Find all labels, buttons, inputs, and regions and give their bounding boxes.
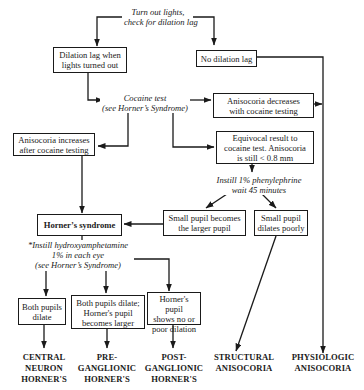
box-equivocal-result: Equivocal result to cocaine test. Anisoc… bbox=[216, 131, 314, 164]
box-no-dilation-line-1: Horner's pupil bbox=[150, 294, 198, 314]
outcome-central-line-2: NEURON bbox=[18, 363, 70, 374]
box-horner-no-dilation: Horner's pupil shows no or poor dilation bbox=[147, 292, 201, 325]
outcome-post-line-1: POST- bbox=[143, 352, 205, 363]
box-decreases-line-2: with cocaine testing bbox=[216, 106, 311, 116]
start-line-1: Turn out lights, bbox=[124, 7, 192, 17]
arrow-dilates-poorly-to-structural bbox=[236, 236, 276, 351]
outcome-postganglionic-horners: POST- GANGLIONIC HORNER'S bbox=[143, 352, 205, 385]
arrow-phenyl-to-dilates-poorly bbox=[262, 194, 276, 208]
note-phenylephrine: Instill 1% phenylephrine wait 45 minutes bbox=[212, 175, 306, 195]
box-anisocoria-decreases: Anisocoria decreases with cocaine testin… bbox=[213, 93, 314, 118]
start-instruction: Turn out lights, check for dilation lag bbox=[124, 7, 192, 27]
outcome-central-line-1: CENTRAL bbox=[18, 352, 70, 363]
box-no-dilation-lag: No dilation lag bbox=[196, 50, 257, 67]
outcome-preganglionic-horners: PRE- GANGLIONIC HORNER'S bbox=[76, 352, 138, 385]
box-increases-line-2: after cocaine testing bbox=[16, 145, 92, 155]
outcome-structural-line-1: STRUCTURAL bbox=[212, 352, 276, 363]
box-dilates-poorly-line-2: dilates poorly bbox=[257, 223, 305, 233]
box-equivocal-line-3: is still < 0.8 mm bbox=[219, 153, 311, 163]
note-phenylephrine-line-1: Instill 1% phenylephrine bbox=[212, 175, 306, 185]
outcome-post-line-2: GANGLIONIC bbox=[143, 363, 205, 374]
note-hydroxy-line-3: (see Horner’s Syndrome) bbox=[22, 260, 134, 270]
note-cocaine-line-2: (see Horner’s Syndrome) bbox=[100, 103, 190, 113]
box-horner-larger-line-3: becomes larger bbox=[74, 318, 142, 328]
note-hydroxy-line-1: *Instill hydroxyamphetamine bbox=[22, 240, 134, 250]
box-both-dilate-horner-larger: Both pupils dilate; Horner's pupil becom… bbox=[71, 295, 145, 329]
box-both-dilate-line-2: dilate bbox=[21, 312, 63, 322]
note-cocaine-test: Cocaine test (see Horner’s Syndrome) bbox=[100, 93, 190, 113]
outcome-structural-anisocoria: STRUCTURAL ANISOCORIA bbox=[212, 352, 276, 374]
box-becomes-larger-line-2: the larger pupil bbox=[166, 223, 243, 233]
box-no-dilation-line-2: shows no or bbox=[150, 314, 198, 324]
box-dilation-lag: Dilation lag when lights turned out bbox=[53, 47, 127, 73]
box-increases-line-1: Anisocoria increases bbox=[16, 135, 92, 145]
outcome-post-line-3: HORNER'S bbox=[143, 374, 205, 385]
box-anisocoria-increases: Anisocoria increases after cocaine testi… bbox=[13, 133, 95, 156]
box-horner-larger-line-1: Both pupils dilate; bbox=[74, 298, 142, 308]
box-dilates-poorly-line-1: Small pupil bbox=[257, 213, 305, 223]
note-hydroxyamphetamine: *Instill hydroxyamphetamine 1% in each e… bbox=[22, 240, 134, 270]
note-cocaine-line-1: Cocaine test bbox=[100, 93, 190, 103]
outcome-central-line-3: HORNER'S bbox=[18, 374, 70, 385]
outcome-pre-line-1: PRE- bbox=[76, 352, 138, 363]
arrow-hydroxy-to-no-dilation bbox=[134, 259, 169, 291]
box-dilation-lag-line-2: lights turned out bbox=[56, 60, 124, 70]
outcome-physiologic-line-2: ANISOCORIA bbox=[289, 363, 357, 374]
box-no-dilation-lag-label: No dilation lag bbox=[201, 54, 253, 64]
outcome-pre-line-2: GANGLIONIC bbox=[76, 363, 138, 374]
box-both-dilate-line-1: Both pupils bbox=[21, 302, 63, 312]
box-horners-syndrome: Horner’s syndrome bbox=[37, 214, 122, 236]
note-hydroxy-line-2: 1% in each eye bbox=[22, 250, 134, 260]
box-equivocal-line-1: Equivocal result to bbox=[219, 133, 311, 143]
outcome-central-neuron-horners: CENTRAL NEURON HORNER'S bbox=[18, 352, 70, 385]
arrow-cocaine-to-equivocal bbox=[173, 113, 214, 147]
box-becomes-larger-line-1: Small pupil becomes bbox=[166, 213, 243, 223]
box-small-becomes-larger: Small pupil becomes the larger pupil bbox=[163, 210, 246, 236]
outcome-physiologic-anisocoria: PHYSIOLOGIC ANISOCORIA bbox=[289, 352, 357, 374]
box-horner-larger-line-2: Horner's pupil bbox=[74, 308, 142, 318]
box-decreases-line-1: Anisocoria decreases bbox=[216, 96, 311, 106]
note-phenylephrine-line-2: wait 45 minutes bbox=[212, 185, 306, 195]
box-horners-syndrome-label: Horner’s syndrome bbox=[44, 220, 116, 230]
box-no-dilation-line-3: poor dilation bbox=[150, 324, 198, 334]
box-both-pupils-dilate: Both pupils dilate bbox=[18, 298, 66, 325]
outcome-structural-line-2: ANISOCORIA bbox=[212, 363, 276, 374]
arrow-phenyl-to-becomes-larger bbox=[206, 194, 227, 208]
box-dilation-lag-line-1: Dilation lag when bbox=[56, 50, 124, 60]
box-small-dilates-poorly: Small pupil dilates poorly bbox=[254, 210, 308, 236]
outcome-physiologic-line-1: PHYSIOLOGIC bbox=[289, 352, 357, 363]
start-line-2: check for dilation lag bbox=[124, 17, 192, 27]
outcome-pre-line-3: HORNER'S bbox=[76, 374, 138, 385]
arrow-start-to-dilation-lag bbox=[97, 17, 122, 46]
box-equivocal-line-2: cocaine test. Anisocoria bbox=[219, 143, 311, 153]
arrow-cocaine-to-increases bbox=[98, 113, 128, 146]
